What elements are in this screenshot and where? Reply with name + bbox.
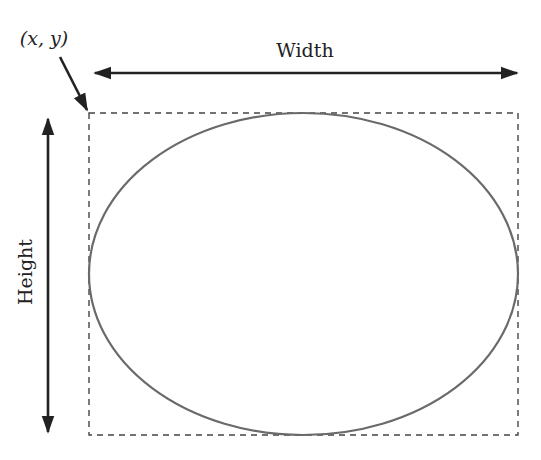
- width-label: Width: [276, 39, 333, 61]
- ellipse-shape: [89, 113, 518, 435]
- height-label: Height: [14, 239, 36, 305]
- origin-pointer-arrow: [60, 57, 87, 110]
- point-label: (x, y): [20, 27, 68, 49]
- ellipse-geometry-diagram: (x, y) Width Height: [0, 0, 541, 460]
- bounding-box: [89, 113, 518, 435]
